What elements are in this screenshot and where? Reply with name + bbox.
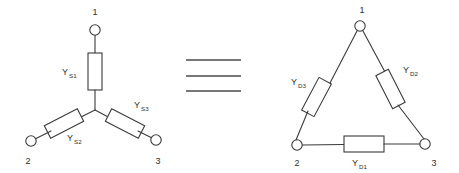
delta-element-yd1-sublabel: D1 xyxy=(359,163,367,170)
delta-wire-node2-to-yd1 xyxy=(303,145,345,146)
wye-node-3-label: 3 xyxy=(155,156,160,166)
wye-network: 1 Y S1 2 Y S2 3 Y S3 xyxy=(25,7,161,166)
delta-wire-node1-to-yd2 xyxy=(363,31,385,72)
delta-network: 1 2 3 Y D3 Y D2 Y D1 xyxy=(291,5,437,170)
delta-element-yd3-label: Y xyxy=(291,77,297,87)
circuit-diagram: 1 Y S1 2 Y S2 3 Y S3 xyxy=(0,0,459,173)
delta-element-yd2-body[interactable] xyxy=(376,69,405,108)
wye-node-1-label: 1 xyxy=(92,7,97,17)
delta-element-yd1-body[interactable] xyxy=(344,136,384,152)
delta-node-1-terminal[interactable] xyxy=(355,21,365,31)
wye-element-ys3-label: Y xyxy=(134,100,140,110)
wye-element-ys3-body[interactable] xyxy=(105,109,144,138)
wye-element-ys1-sublabel: S1 xyxy=(69,72,77,79)
wye-node-3-terminal[interactable] xyxy=(151,135,161,145)
equivalence-symbol-icon xyxy=(186,60,241,91)
wye-node-2-label: 2 xyxy=(25,156,30,166)
delta-element-yd1-label: Y xyxy=(352,158,358,168)
wye-node-2-terminal[interactable] xyxy=(26,136,36,146)
delta-element-yd2-sublabel: D2 xyxy=(410,70,418,77)
wye-node-1-terminal[interactable] xyxy=(90,25,100,35)
delta-wire-yd3-to-node2 xyxy=(296,111,308,140)
delta-node-2-terminal[interactable] xyxy=(292,140,302,150)
delta-element-yd3-sublabel: D3 xyxy=(298,82,306,89)
wye-element-ys2-label: Y xyxy=(67,133,73,143)
delta-wire-yd2-to-node3 xyxy=(398,105,424,139)
wye-element-ys1-label: Y xyxy=(62,67,68,77)
delta-element-yd2-label: Y xyxy=(403,65,409,75)
wye-element-ys2-body[interactable] xyxy=(44,109,83,138)
wye-element-ys2-sublabel: S2 xyxy=(74,138,82,145)
delta-node-1-label: 1 xyxy=(359,5,364,15)
delta-element-yd3-body[interactable] xyxy=(302,77,332,116)
wye-element-ys3-sublabel: S3 xyxy=(141,105,149,112)
delta-node-3-terminal[interactable] xyxy=(420,139,430,149)
delta-node-2-label: 2 xyxy=(294,158,299,168)
delta-wire-node1-to-yd3 xyxy=(330,31,357,83)
delta-node-3-label: 3 xyxy=(431,158,436,168)
wye-element-ys1-body[interactable] xyxy=(88,53,102,90)
